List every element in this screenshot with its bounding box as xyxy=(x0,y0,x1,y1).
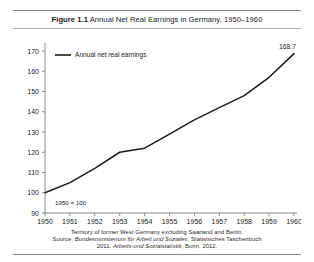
figure-number: Figure 1.1 xyxy=(52,15,88,24)
note-place-year: , Bonn, 2012. xyxy=(182,243,218,249)
x-tick-label: 1952 xyxy=(87,218,103,225)
y-tick-label: 120 xyxy=(27,149,39,156)
x-tick-label: 1954 xyxy=(137,218,153,225)
x-tick-label: 1958 xyxy=(236,218,252,225)
legend-label-annual-net-real-earnings: Annual net real earnings xyxy=(75,51,147,59)
x-tick-label: 1956 xyxy=(187,218,203,225)
bottom-rule xyxy=(13,254,301,255)
note-year-prefix: 2011. xyxy=(97,243,113,249)
x-tick-label: 1957 xyxy=(212,218,228,225)
y-tick-label: 100 xyxy=(27,189,39,196)
y-axis: 90100110120130140150160170 xyxy=(27,43,45,217)
y-tick-label: 140 xyxy=(27,108,39,115)
point-label-group: 168.7 xyxy=(279,43,296,50)
legend: Annual net real earnings xyxy=(55,51,147,59)
note-territory: Territory of former West Germany excludi… xyxy=(13,229,301,236)
data-point-label: 168.7 xyxy=(279,43,296,50)
note-source-prefix: Source: xyxy=(52,236,74,242)
chart-plot-area: 90100110120130140150160170 1950195119521… xyxy=(13,29,301,225)
note-source-line2: Source: Bundesministerium für Arbeit und… xyxy=(13,236,301,243)
note-source-ministry: Bundesministerium für Arbeit und Soziale… xyxy=(75,236,188,242)
y-tick-label: 130 xyxy=(27,129,39,136)
y-tick-label: 90 xyxy=(31,210,39,217)
y-tick-label: 170 xyxy=(27,48,39,55)
figure-source-notes: Territory of former West Germany excludi… xyxy=(13,225,301,251)
x-axis: 1950195119521953195419551956195719581959… xyxy=(37,213,301,225)
note-source-suffix: , Statistisches Taschenbuch xyxy=(188,236,262,242)
x-tick-group: 1950195119521953195419551956195719581959… xyxy=(37,213,301,225)
baseline-annotation: 1950 = 100 xyxy=(55,199,87,206)
y-tick-group: 90100110120130140150160170 xyxy=(27,48,45,217)
y-tick-label: 110 xyxy=(28,169,39,176)
line-chart-svg: 90100110120130140150160170 1950195119521… xyxy=(13,29,301,225)
figure-caption: Figure 1.1 Annual Net Real Earnings in G… xyxy=(13,11,301,28)
x-tick-label: 1960 xyxy=(286,218,301,225)
figure-title: Annual Net Real Earnings in Germany, 195… xyxy=(90,15,263,24)
x-tick-label: 1951 xyxy=(62,218,78,225)
x-tick-label: 1953 xyxy=(112,218,128,225)
y-tick-label: 150 xyxy=(27,88,39,95)
figure-container: Figure 1.1 Annual Net Real Earnings in G… xyxy=(13,10,301,255)
note-source-line3: 2011. Arbeits-und Sozialstatistik, Bonn,… xyxy=(13,243,301,250)
x-tick-label: 1959 xyxy=(261,218,277,225)
x-tick-label: 1955 xyxy=(162,218,178,225)
y-tick-label: 160 xyxy=(27,68,39,75)
series-line-annual-net-real-earnings xyxy=(45,54,294,193)
note-publication: Arbeits-und Sozialstatistik xyxy=(113,243,182,249)
page-bleed-text: · · · · · · · · · · · · · · xyxy=(0,0,314,10)
x-tick-label: 1950 xyxy=(37,218,53,225)
